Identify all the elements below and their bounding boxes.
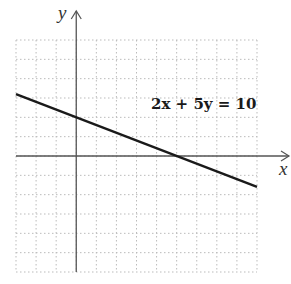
x-axis-label: x — [279, 158, 287, 180]
coordinate-plane — [0, 0, 291, 284]
equation-label: 2x + 5y = 10 — [151, 95, 256, 113]
y-axis-label: y — [58, 2, 66, 24]
